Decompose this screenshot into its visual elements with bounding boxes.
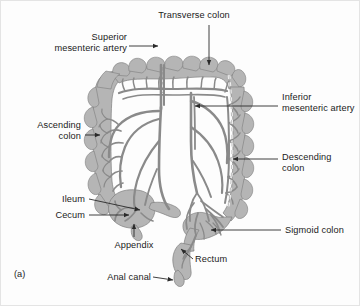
label-transverse-colon: Transverse colon: [144, 10, 244, 21]
label-anal-canal: Anal canal: [93, 272, 151, 283]
figure-panel: Transverse colon Superior mesenteric art…: [0, 0, 360, 306]
label-inferior-mesenteric-artery: Inferior mesenteric artery: [282, 92, 358, 114]
label-appendix: Appendix: [105, 240, 163, 251]
label-rectum: Rectum: [195, 254, 245, 265]
label-superior-mesenteric-artery: Superior mesenteric artery: [21, 32, 127, 54]
label-ascending-colon: Ascending colon: [11, 120, 81, 142]
label-descending-colon: Descending colon: [282, 152, 358, 174]
leader-anal-canal: [153, 277, 173, 280]
label-sigmoid-colon: Sigmoid colon: [285, 225, 357, 236]
label-ileum: Ileum: [31, 194, 85, 205]
figure-caption: (a): [14, 269, 25, 279]
label-cecum: Cecum: [25, 210, 85, 221]
mesenteric-vessels-group: [99, 65, 240, 268]
